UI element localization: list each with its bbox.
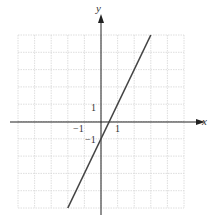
coordinate-plane xyxy=(0,0,213,217)
y-tick-label-neg1: −1 xyxy=(85,135,96,145)
x-tick-label-1: 1 xyxy=(115,124,120,134)
x-tick-label-neg1: −1 xyxy=(73,124,84,134)
y-tick-label-1: 1 xyxy=(91,103,96,113)
y-axis-label: y xyxy=(96,3,101,14)
x-axis-label: x xyxy=(202,116,207,127)
y-axis-arrow-icon xyxy=(98,14,104,23)
